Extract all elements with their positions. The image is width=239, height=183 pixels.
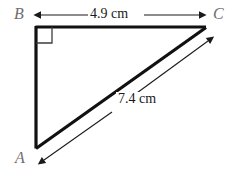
vertex-label-b: B	[14, 6, 24, 22]
vertex-label-c: C	[213, 6, 224, 22]
right-angle-marker	[36, 27, 52, 43]
dimension-label-bc: 4.9 cm	[88, 7, 130, 21]
dimension-label-ac: 7.4 cm	[116, 92, 158, 106]
vertex-label-a: A	[15, 150, 25, 166]
dimension-line-ac-upper	[130, 41, 208, 98]
geometry-figure: B C A 4.9 cm 7.4 cm	[0, 0, 239, 183]
side-ac-hypotenuse	[36, 28, 206, 149]
